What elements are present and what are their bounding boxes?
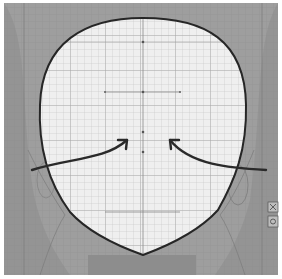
guide-dot	[179, 91, 181, 93]
diagram-svg	[0, 0, 282, 279]
guide-dot	[104, 91, 106, 93]
face-template-diagram	[0, 0, 282, 279]
guide-dot	[142, 91, 145, 94]
marker-bottom-icon	[268, 216, 278, 227]
guide-dot	[142, 41, 145, 44]
guide-dot	[142, 131, 145, 134]
neck-block	[88, 255, 196, 275]
guide-dot	[142, 151, 145, 154]
